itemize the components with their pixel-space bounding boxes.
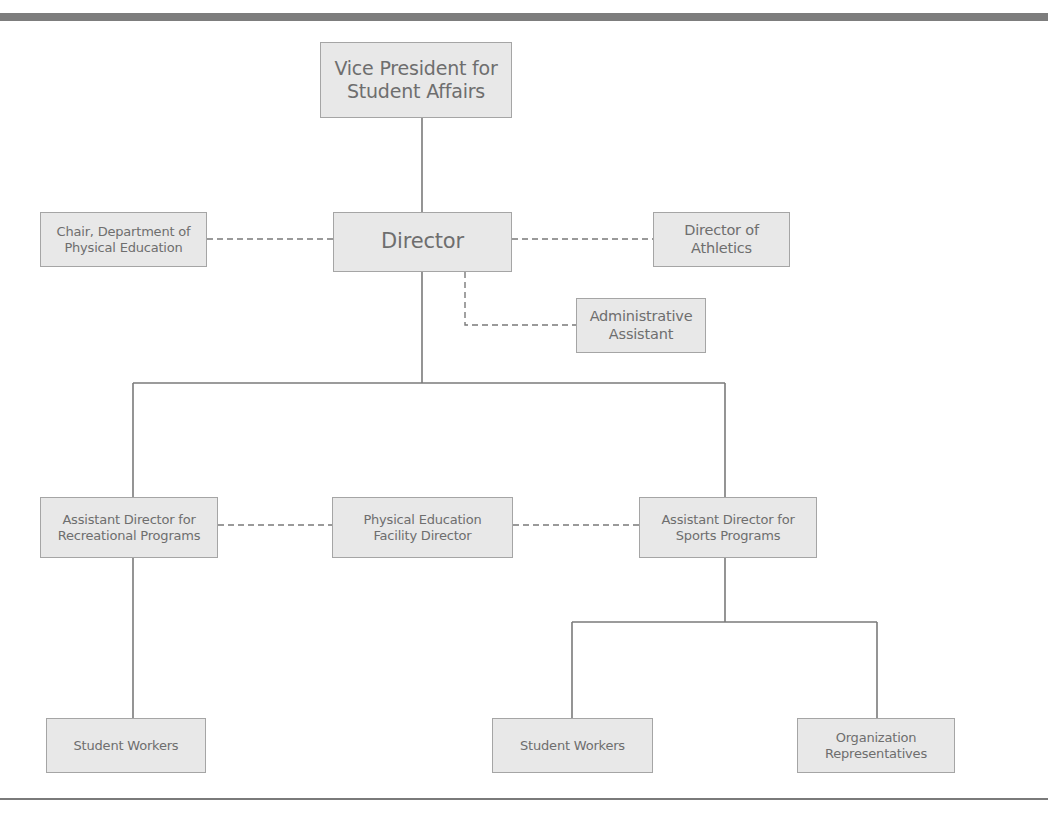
node-label-line: Director of [684,222,759,239]
node-administrative-assistant: AdministrativeAssistant [576,298,706,353]
node-organization-representatives: OrganizationRepresentatives [797,718,955,773]
node-student-workers-sports: Student Workers [492,718,653,773]
node-label-line: Assistant Director for [661,512,794,528]
node-student-workers-recreational: Student Workers [46,718,206,773]
node-label-line: Facility Director [363,528,481,544]
node-label-line: Student Workers [74,738,179,754]
node-director: Director [333,212,512,272]
node-label-line: Sports Programs [661,528,794,544]
node-label-line: Assistant Director for [58,512,201,528]
connector-lines [0,0,1048,819]
node-label-line: Physical Education [363,512,481,528]
node-label-line: Assistant [590,326,693,343]
node-chair-physical-education: Chair, Department ofPhysical Education [40,212,207,267]
bottom-rule [0,798,1048,800]
node-label-line: Physical Education [57,240,191,256]
node-assistant-director-sports: Assistant Director forSports Programs [639,497,817,558]
node-label-line: Vice President for [334,57,497,80]
node-label-line: Student Affairs [334,80,497,103]
node-assistant-director-recreational: Assistant Director forRecreational Progr… [40,497,218,558]
node-label-line: Representatives [825,746,927,762]
node-label-line: Administrative [590,308,693,325]
node-label-line: Organization [825,730,927,746]
node-director-of-athletics: Director ofAthletics [653,212,790,267]
node-label-line: Director [381,229,464,254]
node-label-line: Chair, Department of [57,224,191,240]
node-label-line: Athletics [684,240,759,257]
node-label-line: Recreational Programs [58,528,201,544]
node-label-line: Student Workers [520,738,625,754]
node-pe-facility-director: Physical EducationFacility Director [332,497,513,558]
edge-director-admin [465,272,576,325]
node-vice-president: Vice President forStudent Affairs [320,42,512,118]
